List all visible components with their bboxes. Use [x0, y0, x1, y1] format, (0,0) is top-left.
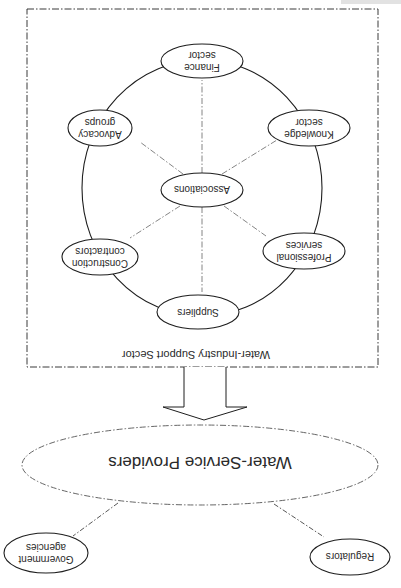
node-construction-contractors: Construction contractors	[62, 239, 138, 275]
associations-label: Associations	[174, 184, 230, 195]
regulators-label: Regulators	[326, 551, 374, 562]
node-advocacy-groups: Advocacy groups	[68, 110, 132, 146]
finance-label-2: sector	[188, 50, 216, 61]
government-label-2: agencies	[26, 542, 66, 553]
node-suppliers: Suppliers	[157, 295, 239, 329]
support-sector-label: Water-Industry Support Sector	[122, 349, 270, 361]
node-associations: Associations	[161, 173, 243, 207]
external-connectors	[73, 503, 324, 537]
node-water-service-providers: Water-Service Providers	[22, 425, 378, 505]
providers-label: Water-Service Providers	[108, 453, 292, 472]
government-label-1: Government	[18, 554, 73, 565]
node-government-agencies: Government agencies	[4, 533, 88, 573]
knowledge-label-2: sector	[295, 117, 323, 128]
knowledge-label-1: Knowledge	[284, 129, 334, 140]
flow-arrow	[163, 367, 247, 420]
node-professional-services: Professional services	[263, 233, 345, 269]
construction-label-2: contractors	[75, 246, 124, 257]
construction-label-1: Construction	[72, 258, 128, 269]
suppliers-label: Suppliers	[177, 307, 219, 318]
professional-label-2: services	[286, 240, 323, 251]
node-knowledge-sector: Knowledge sector	[268, 110, 350, 146]
node-finance-sector: Finance sector	[161, 44, 243, 78]
professional-label-1: Professional	[276, 252, 331, 263]
finance-label-1: Finance	[184, 62, 220, 73]
advocacy-label-1: Advocacy	[78, 129, 121, 140]
water-industry-diagram: Finance sector Knowledge sector Professi…	[0, 0, 401, 588]
advocacy-label-2: groups	[85, 117, 116, 128]
node-regulators: Regulators	[310, 539, 390, 575]
